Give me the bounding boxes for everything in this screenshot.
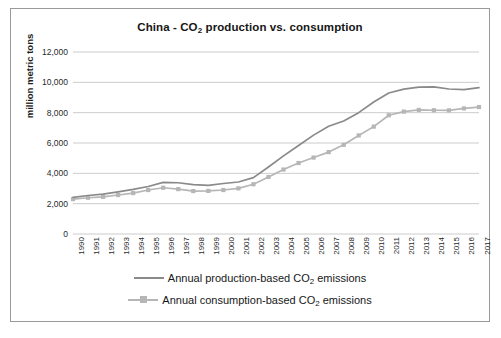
x-tick-label: 1999 bbox=[212, 237, 221, 255]
y-tick-label: 6,000 bbox=[47, 138, 68, 148]
series-marker bbox=[251, 182, 255, 186]
x-tick-label: 2015 bbox=[452, 237, 461, 255]
legend-swatch-production-line-icon bbox=[134, 272, 164, 284]
plot-area: 02,0004,0006,0008,00010,00012,000 199019… bbox=[73, 52, 479, 234]
series-marker bbox=[281, 167, 285, 171]
series-marker bbox=[477, 105, 481, 109]
x-tick-label: 2010 bbox=[377, 237, 386, 255]
y-tick-label: 12,000 bbox=[42, 47, 68, 57]
series-marker bbox=[236, 186, 240, 190]
legend-swatch-consumption-line-marker-icon bbox=[128, 294, 158, 306]
chart-title: China - CO2 production vs. consumption bbox=[11, 21, 489, 33]
series-marker bbox=[372, 125, 376, 129]
x-tick-label: 2001 bbox=[242, 237, 251, 255]
series-marker bbox=[357, 133, 361, 137]
series-marker bbox=[221, 188, 225, 192]
y-tick-label: 10,000 bbox=[42, 77, 68, 87]
x-tick-label: 2013 bbox=[422, 237, 431, 255]
series-marker bbox=[101, 195, 105, 199]
series-marker bbox=[161, 186, 165, 190]
x-tick-label: 1991 bbox=[92, 237, 101, 255]
series-marker bbox=[206, 189, 210, 193]
legend-label-consumption: Annual consumption-based CO2 emissions bbox=[162, 294, 371, 306]
x-tick-label: 1990 bbox=[77, 237, 86, 255]
legend-label-production: Annual production-based CO2 emissions bbox=[168, 272, 366, 284]
chart-title-subscript: 2 bbox=[198, 26, 203, 35]
x-tick-label: 2004 bbox=[287, 237, 296, 255]
series-marker bbox=[417, 108, 421, 112]
x-tick-label: 2006 bbox=[317, 237, 326, 255]
legend-item-consumption[interactable]: Annual consumption-based CO2 emissions bbox=[11, 289, 489, 311]
chart-title-suffix: production vs. consumption bbox=[202, 21, 363, 33]
series-marker bbox=[432, 108, 436, 112]
x-tick-label: 2003 bbox=[272, 237, 281, 255]
x-tick-label: 2016 bbox=[467, 237, 476, 255]
x-tick-label: 2012 bbox=[407, 237, 416, 255]
series-layer bbox=[71, 87, 481, 201]
x-tick-label: 2011 bbox=[392, 237, 401, 254]
series-marker bbox=[131, 191, 135, 195]
series-marker bbox=[296, 161, 300, 165]
x-tick-label: 1994 bbox=[137, 237, 146, 255]
series-marker bbox=[266, 175, 270, 179]
legend-label-consumption-prefix: Annual consumption-based CO bbox=[162, 294, 315, 306]
legend-label-production-subscript: 2 bbox=[310, 277, 314, 286]
x-tick-label: 2008 bbox=[347, 237, 356, 255]
x-tick-label: 1997 bbox=[182, 237, 191, 255]
plot-svg bbox=[73, 52, 479, 234]
gridlines bbox=[73, 52, 479, 234]
y-tick-label: 4,000 bbox=[47, 168, 68, 178]
series-marker bbox=[327, 150, 331, 154]
series-line bbox=[73, 107, 479, 199]
legend-label-production-suffix: emissions bbox=[314, 272, 366, 284]
chart-legend: Annual production-based CO2 emissions An… bbox=[11, 267, 489, 311]
x-tick-label: 2007 bbox=[332, 237, 341, 255]
y-tick-label: 2,000 bbox=[47, 199, 68, 209]
x-tick-label: 1996 bbox=[167, 237, 176, 255]
series-marker bbox=[311, 155, 315, 159]
x-tick-label: 1992 bbox=[107, 237, 116, 255]
x-tick-label: 2002 bbox=[257, 237, 266, 255]
x-tick-label: 1995 bbox=[152, 237, 161, 255]
x-tick-label: 2014 bbox=[437, 237, 446, 255]
x-tick-label: 2005 bbox=[302, 237, 311, 255]
y-tick-label: 0 bbox=[63, 229, 68, 239]
x-tick-label: 2000 bbox=[227, 237, 236, 255]
chart-title-prefix: China - CO bbox=[137, 21, 197, 33]
series-marker bbox=[387, 113, 391, 117]
series-marker bbox=[462, 106, 466, 110]
chart-figure: China - CO2 production vs. consumption m… bbox=[10, 8, 490, 322]
series-marker bbox=[176, 187, 180, 191]
series-marker bbox=[146, 188, 150, 192]
x-tick-label: 1993 bbox=[122, 237, 131, 255]
legend-label-production-prefix: Annual production-based CO bbox=[168, 272, 310, 284]
x-tick-label: 2009 bbox=[362, 237, 371, 255]
legend-item-production[interactable]: Annual production-based CO2 emissions bbox=[11, 267, 489, 289]
series-marker bbox=[116, 193, 120, 197]
x-tick-label: 1998 bbox=[197, 237, 206, 255]
series-marker bbox=[447, 108, 451, 112]
series-marker bbox=[402, 110, 406, 114]
x-tick-label: 2017 bbox=[483, 237, 492, 255]
legend-label-consumption-subscript: 2 bbox=[315, 299, 319, 308]
legend-label-consumption-suffix: emissions bbox=[320, 294, 372, 306]
series-marker bbox=[342, 143, 346, 147]
y-tick-label: 8,000 bbox=[47, 108, 68, 118]
y-axis-title: million metric tons bbox=[24, 21, 35, 131]
series-marker bbox=[191, 189, 195, 193]
series-line bbox=[73, 87, 479, 197]
